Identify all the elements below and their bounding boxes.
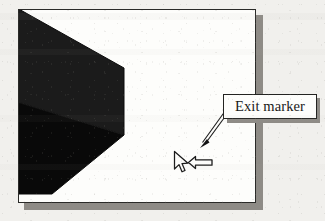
isometric-black-block [19,10,256,203]
callout-label-text: Exit marker [235,99,305,115]
viewport-panel [18,9,256,203]
callout-box: Exit marker [223,94,317,119]
exit-direction-block-arrow-icon [189,157,213,169]
mouse-pointer-icon [175,152,189,172]
figure-canvas: Exit marker [0,0,325,221]
